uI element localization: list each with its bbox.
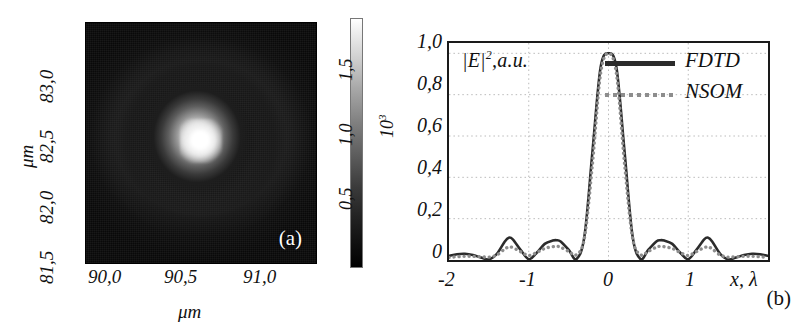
colorbar-unit-exponent: 3 [376,115,388,121]
panel-b-ytick-1_0: 1,0 [417,30,442,53]
panel-b-ytick-0: 0 [432,240,442,263]
panel-b-ylabel-units: ,a.u. [492,49,528,71]
colorbar-unit: 103 [376,115,398,139]
panel-b-ytick-0_4: 0,4 [417,156,442,179]
panel-a-ylabel: μm [16,145,38,168]
colorbar: 0,5 1,0 1,5 103 [336,18,400,268]
panel-b-xtick-neg1: -1 [519,268,536,291]
legend-swatch-fdtd-solid-line [605,61,675,66]
panel-a-ytick-1: 82,0 [36,191,58,224]
legend-swatch-nsom-dotted-line [605,93,675,97]
panel-b-ytick-0_6: 0,6 [417,114,442,137]
legend: FDTD NSOM [605,48,765,110]
panel-b-xtick-0: 0 [603,268,613,291]
legend-label-fdtd: FDTD [685,48,740,73]
panel-a-ytick-2: 82,5 [36,130,58,163]
panel-a-xtick-2: 91,0 [243,266,276,288]
panel-b-xlabel: x, λ [730,268,758,291]
panel-b-ytick-group: 1,0 0,8 0,6 0,4 0,2 0 [400,0,442,290]
figure-root: 81,5 82,0 82,5 83,0 μm (a) 90,0 90,5 91,… [0,0,809,333]
panel-a-ytick-3: 83,0 [36,70,58,103]
legend-row-fdtd: FDTD [605,48,765,79]
panel-b-ylabel-base: |E| [462,49,486,71]
colorbar-tick-1: 1,0 [336,124,357,147]
legend-row-nsom: NSOM [605,79,765,110]
colorbar-tick-0: 0,5 [336,188,357,211]
panel-b-ylabel: |E|2,a.u. [462,48,528,72]
panel-a-ytick-0: 81,5 [36,251,58,284]
panel-b-line-plot: 1,0 0,8 0,6 0,4 0,2 0 |E|2,a.u. FDTD [400,0,809,333]
panel-a-xtick-1: 90,5 [164,266,197,288]
panel-b-label: (b) [767,286,792,311]
panel-b-xtick-neg2: -2 [438,268,455,291]
panel-a-xlabel: μm [178,301,201,323]
nsom-intensity-map: (a) [85,22,317,264]
panel-a-label: (a) [279,226,302,251]
legend-label-nsom: NSOM [685,79,742,104]
panel-b-xtick-1: 1 [685,268,695,291]
panel-b-ytick-0_8: 0,8 [417,72,442,95]
colorbar-tick-2: 1,5 [336,59,357,82]
nsom-bright-spot-core [180,119,222,163]
panel-a-xtick-0: 90,0 [88,266,121,288]
panel-b-ytick-0_2: 0,2 [417,198,442,221]
colorbar-unit-base: 10 [377,120,397,138]
